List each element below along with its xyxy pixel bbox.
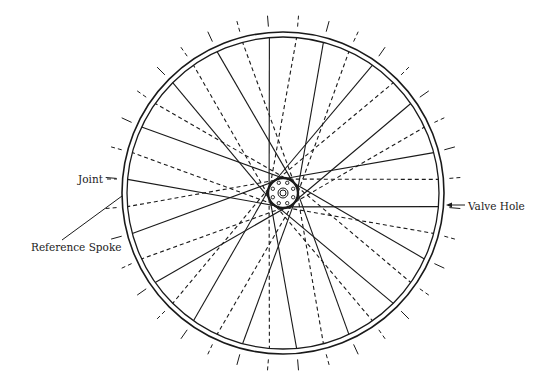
rim-tick: [237, 21, 240, 32]
spoke-far-side: [132, 153, 279, 207]
hub-spoke-hole: [277, 201, 280, 204]
rim-tick: [181, 330, 187, 339]
rim-tick: [354, 344, 359, 354]
rim-tick: [379, 47, 385, 56]
wheel-diagram: [0, 0, 550, 382]
spoke-near-side: [297, 42, 324, 196]
spoke-far-side: [194, 65, 272, 201]
spoke-far-side: [217, 199, 296, 335]
arrow-head-icon: [446, 203, 452, 208]
hub-spoke-hole: [286, 201, 289, 204]
rim-tick: [137, 91, 146, 97]
joint-label: Joint: [78, 173, 103, 185]
spoke-near-side: [272, 65, 373, 185]
spoke-near-side: [155, 205, 291, 283]
spoke-far-side: [297, 189, 324, 343]
rim-tick: [354, 32, 359, 42]
spoke-near-side: [296, 187, 349, 334]
rim-tick: [326, 354, 329, 365]
rim-tick: [420, 289, 429, 295]
rim-tick: [326, 21, 329, 32]
hub-spoke-hole: [291, 187, 294, 190]
rim-tick: [379, 330, 385, 339]
spoke-near-side: [142, 127, 289, 180]
rim-tick: [208, 344, 213, 354]
rim-tick: [420, 91, 429, 97]
rim-tick: [268, 16, 269, 27]
rim-tick: [106, 178, 117, 179]
rim-tick: [122, 118, 132, 123]
rim-tick: [157, 67, 165, 75]
rim-tick: [444, 236, 455, 239]
hub-spoke-hole: [286, 181, 289, 184]
rim-tick: [298, 16, 299, 27]
spoke-near-side: [269, 194, 297, 348]
hub-flange: [268, 178, 298, 208]
rim-tick: [111, 236, 122, 239]
rim-tick: [181, 47, 187, 56]
hub: [268, 178, 298, 208]
spoke-near-side: [173, 83, 273, 203]
spoke-far-side: [142, 206, 289, 259]
spoke-near-side: [279, 153, 433, 180]
reference-spoke-label: Reference Spoke: [31, 241, 121, 253]
rim-tick: [449, 208, 460, 209]
rim-tick: [268, 359, 269, 370]
spoke-far-side: [269, 38, 297, 192]
hub-spoke-hole: [291, 196, 294, 199]
spoke-near-side: [273, 203, 393, 303]
spoke-near-side: [194, 185, 272, 321]
rim-tick: [434, 264, 444, 269]
rim-tick: [137, 289, 146, 295]
rim-tick: [298, 359, 299, 370]
rim-tick: [208, 32, 213, 42]
hub-spoke-hole: [277, 181, 280, 184]
rim-tick: [401, 67, 409, 75]
spoke-near-side: [132, 180, 279, 234]
rim-tick: [106, 208, 117, 209]
rim-tick: [401, 311, 409, 319]
hub-spoke-hole: [271, 187, 274, 190]
valve-hole-label: Valve Hole: [468, 200, 525, 212]
spoke-near-side: [289, 180, 425, 259]
rim-tick: [444, 147, 455, 150]
rim-tick: [434, 118, 444, 123]
reference-spoke-leader: [62, 196, 122, 240]
rim-tick: [122, 264, 132, 269]
rim-tick: [157, 311, 165, 319]
hub-spoke-hole: [271, 196, 274, 199]
rim-tick: [237, 354, 240, 365]
rim-tick: [449, 178, 460, 179]
spoke-near-side: [217, 52, 296, 188]
rim-tick: [111, 147, 122, 150]
